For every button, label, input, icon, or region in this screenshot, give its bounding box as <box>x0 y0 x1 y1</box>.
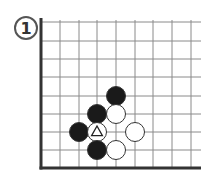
black-stone <box>107 87 126 106</box>
black-stone <box>88 105 107 124</box>
problem-number: 1 <box>20 19 31 38</box>
white-stone <box>107 141 126 160</box>
problem-number-badge: 1 <box>15 17 37 39</box>
white-stone <box>88 123 107 142</box>
white-stone <box>126 123 145 142</box>
black-stone <box>88 141 107 160</box>
stones-layer <box>70 87 145 160</box>
white-stone <box>107 105 126 124</box>
black-stone <box>70 123 89 142</box>
go-diagram: 1 <box>0 0 211 171</box>
